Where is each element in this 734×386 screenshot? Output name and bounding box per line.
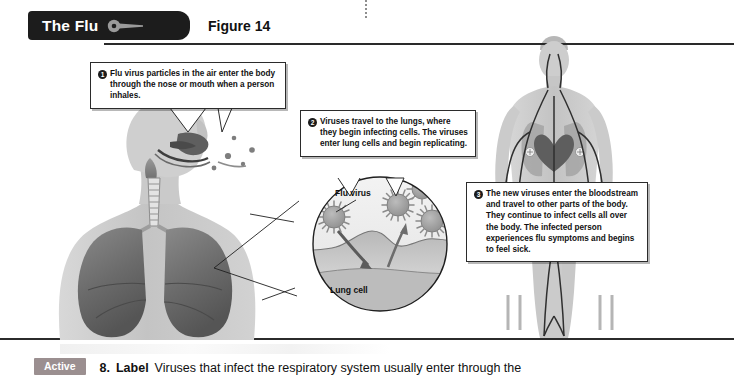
step-number-badge: 2 <box>308 118 317 127</box>
question-text: Viruses that infect the respiratory syst… <box>155 361 522 375</box>
callout-step-3: 3The new viruses enter the bloodstream a… <box>466 182 648 262</box>
callout-step-1: 1Flu virus particles in the air enter th… <box>90 62 286 109</box>
question-number: 8. <box>100 361 110 375</box>
active-badge: Active <box>34 358 86 375</box>
callout-step-1-text: Flu virus particles in the air enter the… <box>110 69 275 100</box>
callout-step-2-text: Viruses travel to the lungs, where they … <box>320 117 468 148</box>
step-number-badge: 1 <box>98 70 107 79</box>
figure-page: The Flu Figure 14 <box>0 0 734 386</box>
flu-virus-label: Flu virus <box>335 188 371 198</box>
callout-step-2: 2Viruses travel to the lungs, where they… <box>300 110 476 157</box>
question-verb: Label <box>116 361 149 375</box>
step-number-badge: 3 <box>474 190 483 199</box>
callout-step-3-text: The new viruses enter the bloodstream an… <box>486 189 638 254</box>
question-row: Active 8. Label Viruses that infect the … <box>34 360 521 377</box>
lung-cell-label: Lung cell <box>330 285 368 295</box>
